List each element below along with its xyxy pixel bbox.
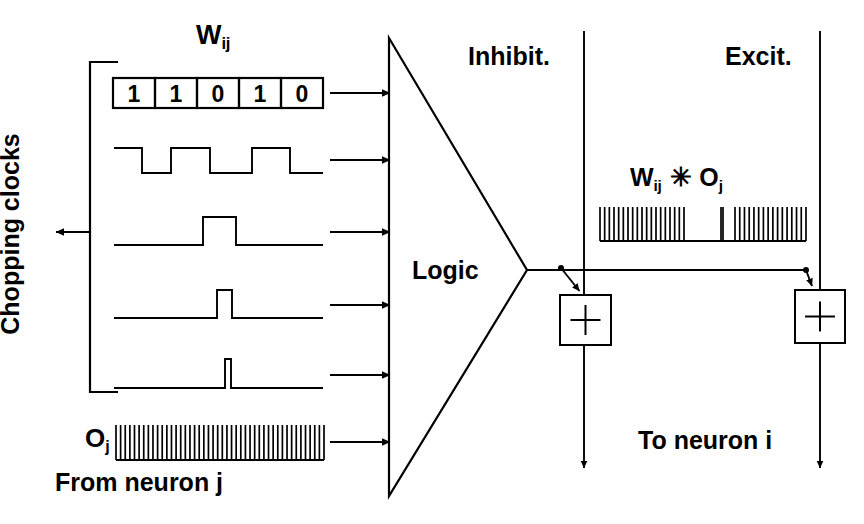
product-w-subscript: ij [654,177,662,194]
weight-bit-value: 1 [239,81,281,108]
chopping-clock-waveforms [114,148,323,388]
from-neuron-j-label: From neuron j [55,470,223,495]
product-w-base: W [630,163,654,191]
wij-title-base: W [196,20,221,50]
weight-bit-value: 1 [155,81,197,108]
chopping-clocks-label: Chopping clocks [0,74,23,394]
neural-chopping-clock-diagram: Chopping clocks Wij Oj From neuron j Log… [0,0,864,524]
logic-label: Logic [412,258,479,283]
input-arrows [330,93,390,442]
pulse-wide [114,217,323,245]
summation-blocks [558,265,845,345]
weight-bit-value: 1 [113,81,155,108]
product-o-subscript: j [719,177,723,194]
inhibit-label: Inhibit. [468,44,550,69]
oj-input-label: Oj [85,425,109,454]
pulse-medium [114,290,323,318]
to-neuron-i-label: To neuron i [638,428,772,453]
square-wave-50-percent [114,148,323,173]
multiply-icon: ✳ [670,162,692,192]
weight-bit-value: 0 [281,81,323,108]
weight-bit-value: 0 [197,81,239,108]
spike-trains [116,207,806,460]
sum-block-input-arrow [561,268,580,291]
bracket-path [90,62,118,392]
oj-base: O [85,423,105,453]
wij-times-oj-label: Wij✳Oj [630,164,723,193]
sum-block-input-arrow [806,270,812,286]
oj-input-spike-train [116,425,324,460]
output-signal-lines [527,31,820,468]
wij-title-subscript: ij [221,34,229,53]
wij-times-oj-output-spike-train [600,207,806,241]
oj-subscript: j [105,437,109,455]
chopping-clocks-bracket [56,62,118,392]
pulse-narrow [114,359,323,388]
weight-register-title: Wij [196,22,230,53]
product-o-base: O [699,163,718,191]
excit-label: Excit. [725,44,792,69]
